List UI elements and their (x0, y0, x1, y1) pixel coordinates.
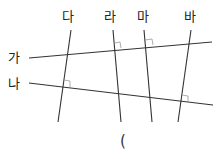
line-ma (144, 30, 152, 122)
right-angle-mark-ma-ga (145, 39, 153, 45)
answer-paren: ( (120, 134, 126, 149)
label-ra: 라 (104, 10, 116, 23)
line-na (29, 83, 213, 105)
label-da: 다 (62, 10, 74, 23)
line-da (58, 30, 71, 122)
right-angle-mark-da-na (64, 80, 70, 87)
right-angle-mark-ra-ga (114, 42, 121, 48)
line-ba (178, 30, 191, 122)
label-ba: 바 (184, 10, 196, 23)
label-na: 나 (8, 77, 20, 90)
label-ma: 마 (137, 10, 149, 23)
line-ra (113, 30, 121, 122)
label-ga: 가 (8, 51, 20, 64)
